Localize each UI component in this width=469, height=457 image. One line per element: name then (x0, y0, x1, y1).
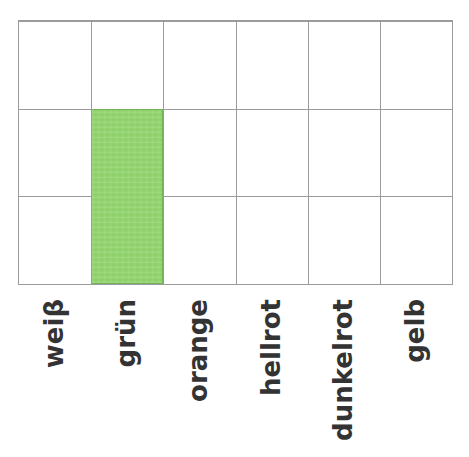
x-tick-weiss: weiβ (18, 285, 90, 457)
plot-area (18, 20, 453, 285)
x-axis-labels: weiβ grün orange hellrot dunkelrot gelb (18, 285, 453, 457)
bar-chart: weiβ grün orange hellrot dunkelrot gelb (0, 0, 469, 457)
bar-texture (92, 110, 162, 283)
x-tick-gelb: gelb (379, 285, 451, 457)
x-tick-label: grün (111, 299, 141, 367)
x-tick-orange: orange (162, 285, 234, 457)
gridline-vertical (163, 21, 164, 284)
x-tick-label: hellrot (256, 299, 286, 396)
x-tick-label: dunkelrot (328, 299, 358, 441)
x-tick-label: orange (183, 299, 213, 402)
bar-gruen[interactable] (91, 109, 163, 284)
gridline-vertical (380, 21, 381, 284)
gridline-vertical (91, 21, 92, 284)
x-tick-gruen: grün (90, 285, 162, 457)
x-tick-hellrot: hellrot (235, 285, 307, 457)
x-tick-label: gelb (400, 299, 430, 363)
x-tick-dunkelrot: dunkelrot (307, 285, 379, 457)
x-tick-label: weiβ (39, 299, 69, 368)
gridline-vertical (236, 21, 237, 284)
gridline-vertical (308, 21, 309, 284)
